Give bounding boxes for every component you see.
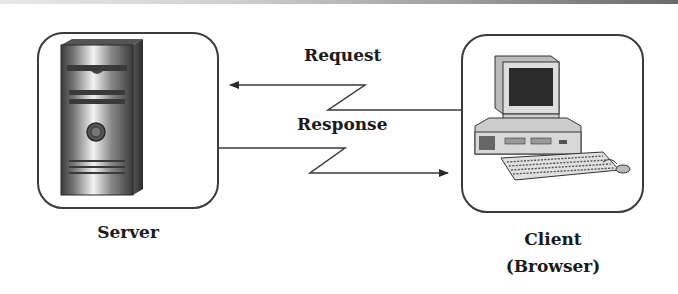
- client-label-line1: Client: [503, 226, 603, 253]
- request-label: Request: [304, 45, 381, 65]
- client-label: Client (Browser): [503, 226, 603, 280]
- response-arrow: [219, 148, 448, 173]
- client-label-line2: (Browser): [503, 253, 603, 280]
- response-label: Response: [297, 114, 388, 134]
- server-label: Server: [78, 222, 178, 242]
- request-arrow: [230, 85, 461, 110]
